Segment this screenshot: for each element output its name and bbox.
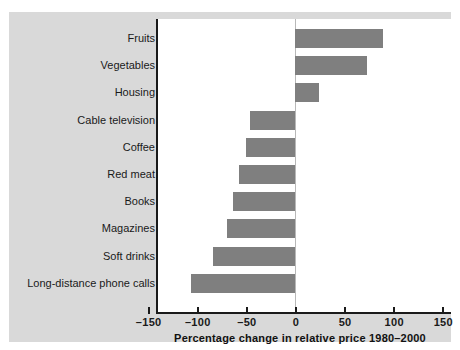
x-tick: [246, 307, 248, 314]
bar: [213, 247, 295, 266]
bar: [250, 111, 295, 130]
category-label: Coffee: [123, 141, 155, 153]
bar: [191, 274, 295, 293]
x-tick-label: 50: [325, 316, 365, 328]
category-label: Long-distance phone calls: [27, 277, 155, 289]
x-axis-title: Percentage change in relative price 1980…: [149, 332, 451, 344]
bar: [233, 192, 295, 211]
y-axis-line: [156, 19, 158, 313]
x-tick: [442, 307, 444, 314]
bar: [295, 83, 319, 102]
x-tick: [295, 307, 297, 314]
x-tick-label: –50: [227, 316, 267, 328]
x-tick: [197, 307, 199, 314]
bar: [239, 165, 295, 184]
x-tick: [393, 307, 395, 314]
x-tick-label: 150: [423, 316, 460, 328]
category-label: Vegetables: [101, 59, 155, 71]
bar: [227, 219, 295, 238]
x-axis-line: [156, 312, 451, 314]
bar: [246, 138, 295, 157]
category-label: Cable television: [77, 114, 155, 126]
x-tick-label: –150: [129, 316, 169, 328]
category-label: Fruits: [128, 32, 156, 44]
x-tick-label: –100: [178, 316, 218, 328]
bar: [295, 29, 383, 48]
category-label: Soft drinks: [103, 250, 155, 262]
category-label: Magazines: [102, 222, 155, 234]
x-tick-label: 0: [276, 316, 316, 328]
category-label: Housing: [115, 86, 155, 98]
category-label: Books: [124, 195, 155, 207]
x-tick: [344, 307, 346, 314]
bar: [295, 56, 367, 75]
chart-figure: FruitsVegetablesHousingCable televisionC…: [9, 12, 451, 342]
x-tick-label: 100: [374, 316, 414, 328]
category-label: Red meat: [107, 168, 155, 180]
x-tick: [148, 307, 150, 314]
